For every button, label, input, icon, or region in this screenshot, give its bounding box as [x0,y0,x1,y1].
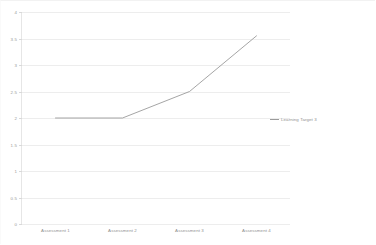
x-axis-tick-label: Assessment 3 [175,228,204,233]
y-axis-tick-label: 1.5 [11,142,17,147]
y-axis-tick-label: 1 [14,169,17,174]
x-axis-tick-label: Assessment 2 [108,228,137,233]
y-axis-tick-label: 2 [14,116,17,121]
y-axis-tick [19,224,22,225]
y-axis-tick-label: 4 [14,10,17,15]
y-axis-tick-label: 0.5 [11,195,17,200]
x-axis-labels: Assessment 1Assessment 2Assessment 3Asse… [22,228,290,240]
gridline [22,224,290,225]
x-axis-tick-label: Assessment 1 [41,228,70,233]
y-axis-tick-label: 3 [14,63,17,68]
y-axis-tick-label: 3.5 [11,36,17,41]
series-line-learning-target [56,36,257,118]
plot-area: 00.511.522.533.54 [22,12,290,224]
series-layer [22,12,290,224]
x-axis-tick-label: Assessment 4 [242,228,271,233]
chart-legend: Learning Target 3 [270,117,317,122]
y-axis-tick-label: 2.5 [11,89,17,94]
y-axis-tick-label: 0 [14,222,17,227]
legend-line-swatch [270,119,279,120]
line-chart: 00.511.522.533.54 Assessment 1Assessment… [0,0,376,245]
legend-item-label: Learning Target 3 [281,117,317,122]
